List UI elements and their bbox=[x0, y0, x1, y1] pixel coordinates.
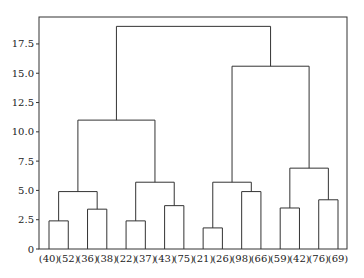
leaf-label: (75) bbox=[174, 253, 195, 264]
leaf-label: (76) bbox=[308, 253, 329, 264]
leaf-label: (36) bbox=[77, 253, 98, 264]
dendrogram-chart: 02.55.07.510.012.515.017.5 (40)(52)(36)(… bbox=[0, 0, 364, 278]
dendrogram-links bbox=[49, 26, 338, 249]
leaf-label: (40) bbox=[39, 253, 60, 264]
leaf-label: (52) bbox=[58, 253, 79, 264]
leaf-label: (69) bbox=[328, 253, 349, 264]
leaf-label: (22) bbox=[116, 253, 137, 264]
leaf-label: (42) bbox=[289, 253, 310, 264]
y-tick-label: 5.0 bbox=[18, 185, 34, 196]
y-axis: 02.55.07.510.012.515.017.5 bbox=[12, 38, 39, 254]
y-tick-label: 2.5 bbox=[18, 214, 34, 225]
y-tick-label: 12.5 bbox=[12, 97, 34, 108]
leaf-label: (66) bbox=[251, 253, 272, 264]
leaf-label: (26) bbox=[212, 253, 233, 264]
leaf-labels: (40)(52)(36)(38)(22)(37)(43)(75)(21)(26)… bbox=[39, 253, 349, 264]
y-tick-label: 7.5 bbox=[18, 156, 34, 167]
y-tick-label: 17.5 bbox=[12, 38, 34, 49]
leaf-label: (38) bbox=[97, 253, 118, 264]
y-tick-label: 10.0 bbox=[12, 126, 34, 137]
y-tick-label: 15.0 bbox=[12, 68, 34, 79]
y-tick-label: 0 bbox=[28, 244, 34, 255]
leaf-label: (98) bbox=[231, 253, 252, 264]
leaf-label: (59) bbox=[270, 253, 291, 264]
leaf-label: (43) bbox=[154, 253, 175, 264]
plot-frame bbox=[39, 17, 347, 249]
leaf-label: (37) bbox=[135, 253, 156, 264]
leaf-label: (21) bbox=[193, 253, 214, 264]
